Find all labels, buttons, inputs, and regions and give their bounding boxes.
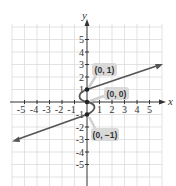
graph: -5 -4 -3 -2 -1 1 2 3 4 5 5 4 3 2 1 -1 -2… bbox=[0, 0, 176, 186]
svg-text:-4: -4 bbox=[76, 147, 84, 158]
svg-text:2: 2 bbox=[79, 72, 84, 83]
x-axis-label: x bbox=[167, 95, 173, 107]
annotation-0-neg1: (0, −1) bbox=[91, 128, 119, 141]
x-axis-arrow-icon bbox=[159, 100, 166, 105]
svg-text:-2: -2 bbox=[55, 104, 63, 115]
y-axis-label: y bbox=[81, 9, 87, 21]
svg-text:(0, 0): (0, 0) bbox=[107, 89, 127, 99]
point-0-1 bbox=[85, 87, 90, 92]
svg-text:-4: -4 bbox=[30, 104, 38, 115]
svg-text:4: 4 bbox=[79, 47, 84, 58]
svg-text:(0, 1): (0, 1) bbox=[95, 65, 115, 75]
annotation-0-1: (0, 1) bbox=[92, 63, 117, 76]
point-0-0 bbox=[85, 100, 90, 105]
x-tick-labels: -5 -4 -3 -2 -1 1 2 3 4 5 bbox=[17, 104, 152, 115]
svg-text:-3: -3 bbox=[42, 104, 50, 115]
svg-text:4: 4 bbox=[135, 104, 140, 115]
svg-text:5: 5 bbox=[147, 104, 152, 115]
svg-text:-5: -5 bbox=[17, 104, 25, 115]
svg-text:-3: -3 bbox=[76, 134, 84, 145]
svg-text:2: 2 bbox=[110, 104, 115, 115]
svg-text:3: 3 bbox=[79, 59, 84, 70]
svg-text:1: 1 bbox=[97, 104, 102, 115]
svg-text:-2: -2 bbox=[76, 122, 84, 133]
point-0-neg1 bbox=[85, 112, 90, 117]
svg-text:3: 3 bbox=[122, 104, 127, 115]
svg-text:-5: -5 bbox=[76, 159, 84, 170]
svg-text:5: 5 bbox=[79, 34, 84, 45]
svg-text:-1: -1 bbox=[67, 104, 75, 115]
annotation-0-0: (0, 0) bbox=[104, 87, 129, 100]
svg-text:(0, −1): (0, −1) bbox=[93, 130, 118, 140]
